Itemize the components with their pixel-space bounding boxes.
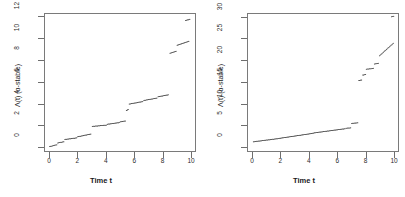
y-tick-mark: [241, 82, 247, 83]
y-tick-mark: [241, 104, 247, 105]
panel-right: 0510152025300246810 Time t Λ(t) (α-stabl…: [203, 0, 405, 197]
x-tick-label: 10: [187, 157, 194, 164]
x-tick-label: 2: [279, 157, 283, 164]
y-tick-label: 12: [13, 2, 20, 30]
x-axis-title-right: Time t: [203, 176, 405, 185]
plot-area-left: [44, 13, 196, 152]
y-tick-mark: [241, 125, 247, 126]
x-tick-label: 0: [47, 157, 51, 164]
x-axis-title-left: Time t: [0, 176, 202, 185]
y-axis-title-text-left: Λ(t) (α-stable): [14, 64, 21, 107]
figure-two-panel-subordinator-paths: 0246810120246810 Time t Λ(t) (α-stable) …: [0, 0, 405, 197]
y-tick-mark: [38, 38, 44, 39]
y-tick-mark: [241, 60, 247, 61]
y-tick-label: 30: [216, 3, 223, 31]
y-axis-title-left: Λ(t) (α-stable): [14, 31, 21, 141]
x-tick-label: 2: [76, 157, 80, 164]
data-points-left: [44, 13, 196, 152]
y-tick-mark: [38, 16, 44, 17]
x-tick-label: 4: [104, 157, 108, 164]
x-tick-label: 10: [390, 157, 397, 164]
y-tick-mark: [241, 147, 247, 148]
x-tick-label: 6: [335, 157, 339, 164]
panel-left: 0246810120246810 Time t Λ(t) (α-stable): [0, 0, 202, 197]
y-tick-mark: [38, 104, 44, 105]
x-tick-label: 0: [250, 157, 254, 164]
y-axis-title-text-right: Λ(t) (α-stable): [217, 64, 224, 107]
x-tick-label: 4: [307, 157, 311, 164]
y-tick-mark: [38, 60, 44, 61]
y-tick-mark: [38, 82, 44, 83]
x-tick-label: 8: [161, 157, 165, 164]
y-tick-mark: [241, 38, 247, 39]
data-points-right: [247, 13, 399, 152]
x-tick-label: 6: [132, 157, 136, 164]
y-axis-title-right: Λ(t) (α-stable): [217, 31, 224, 141]
plot-area-right: [247, 13, 399, 152]
y-tick-mark: [38, 125, 44, 126]
y-tick-mark: [38, 147, 44, 148]
y-tick-mark: [241, 17, 247, 18]
x-tick-label: 8: [364, 157, 368, 164]
